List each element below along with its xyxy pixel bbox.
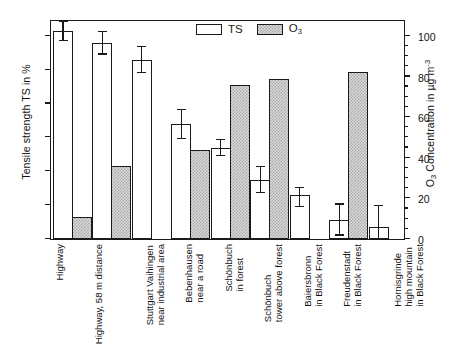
chart-legend: TS O3: [196, 22, 302, 36]
bar-ts: [132, 60, 152, 239]
error-bar-ts: [53, 21, 73, 41]
y-tick-right: [404, 75, 410, 76]
right-title-pre: O: [424, 179, 436, 187]
bar-ts: [171, 124, 191, 239]
x-category-label: Bebenhausennear a road: [183, 244, 205, 303]
x-category-label-line: Freudenstadt: [341, 244, 352, 307]
y-tick-left: [45, 204, 51, 205]
x-category-label: Stuttgart Vaihingennear industrial area: [144, 244, 166, 325]
x-category-label: Freudenstadtin Black Forest: [341, 244, 363, 307]
y-tick-left: [45, 102, 51, 103]
error-bar-stem: [141, 46, 142, 73]
x-category-label-line: in Black Forest: [313, 244, 324, 307]
legend-label-ts: TS: [228, 23, 243, 35]
error-bar-cap-bottom: [335, 234, 344, 235]
x-category-label: Hornisgrindehigh mountainin Black Forest: [392, 244, 425, 307]
error-bar-cap-bottom: [374, 238, 383, 239]
y-tick-label-right: 60: [418, 112, 458, 124]
bar-ts: [92, 43, 112, 239]
error-bar-cap-top: [177, 109, 186, 110]
y-axis-left-title: Tensile strength TS in %: [20, 47, 32, 197]
legend-item-ts: TS: [196, 23, 243, 35]
bar-o3: [348, 72, 368, 239]
x-category-label: Schönbuchin forest: [223, 244, 245, 292]
y-tick-left: [45, 238, 51, 239]
x-category-label-line: Stuttgart Vaihingen: [144, 244, 155, 325]
y-tick-right-minor: [404, 85, 408, 86]
error-bar-cap-top: [335, 203, 344, 204]
error-bar-ts: [329, 203, 349, 235]
error-bar-ts: [369, 205, 389, 239]
error-bar-ts: [92, 31, 112, 55]
error-bar-cap-bottom: [216, 155, 225, 156]
legend-label-o3: O3: [289, 22, 302, 36]
x-category-label-line: Baiersbronn: [302, 244, 313, 307]
y-tick-right: [404, 238, 410, 239]
y-tick-left: [45, 136, 51, 137]
y-tick-right-minor: [404, 65, 408, 66]
error-bar-stem: [299, 187, 300, 207]
x-category-label: Schönbuchtower above forest: [262, 244, 284, 322]
error-bar-ts: [290, 187, 310, 207]
y-tick-right: [404, 116, 410, 117]
x-category-label-line: Highway: [54, 244, 65, 280]
x-category-label-line: near a road: [194, 244, 205, 303]
bars-layer: [51, 21, 404, 239]
y-tick-label-right: 80: [418, 72, 458, 84]
y-tick-right-minor: [404, 136, 408, 137]
y-tick-right-minor: [404, 177, 408, 178]
bar-o3: [269, 79, 289, 239]
error-bar-ts: [132, 46, 152, 73]
y-tick-left: [45, 69, 51, 70]
error-bar-ts: [211, 139, 231, 156]
error-bar-cap-top: [295, 187, 304, 188]
x-category-label: Highway, 58 m distance: [93, 244, 104, 344]
plot-area: 020406080100120020406080100: [50, 20, 405, 240]
y-tick-right-minor: [404, 228, 408, 229]
x-category-label-line: in Black Forest: [352, 244, 363, 307]
legend-swatch-ts: [196, 24, 222, 35]
y-tick-right: [404, 157, 410, 158]
error-bar-cap-top: [216, 139, 225, 140]
y-tick-right: [404, 197, 410, 198]
bar-o3: [230, 85, 250, 239]
error-bar-cap-bottom: [295, 206, 304, 207]
legend-item-o3: O3: [257, 22, 302, 36]
x-category-label-line: Schönbuch: [262, 244, 273, 322]
right-title-sup: -3: [423, 60, 432, 67]
y-tick-right-minor: [404, 96, 408, 97]
x-category-label-line: Bebenhausen: [183, 244, 194, 303]
y-tick-right: [404, 35, 410, 36]
y-tick-label-right: 40: [418, 153, 458, 165]
y-tick-right-minor: [404, 126, 408, 127]
x-category-label-line: in Black Forest: [414, 244, 425, 307]
error-bar-cap-top: [137, 46, 146, 47]
error-bar-cap-top: [59, 21, 68, 22]
x-category-label-line: in forest: [234, 244, 245, 292]
y-tick-right-minor: [404, 218, 408, 219]
error-bar-stem: [339, 203, 340, 235]
error-bar-cap-top: [256, 166, 265, 167]
y-tick-right-minor: [404, 45, 408, 46]
x-axis-category-labels: HighwayHighway, 58 m distanceStuttgart V…: [50, 244, 405, 364]
y-tick-left: [45, 170, 51, 171]
y-tick-right-minor: [404, 167, 408, 168]
x-category-label: Highway: [54, 244, 65, 280]
error-bar-cap-bottom: [59, 40, 68, 41]
bar-o3: [111, 166, 131, 239]
error-bar-cap-bottom: [177, 138, 186, 139]
y-tick-right-minor: [404, 207, 408, 208]
right-title-sub: 3: [429, 175, 438, 179]
y-tick-left: [45, 35, 51, 36]
bar-ts: [211, 148, 231, 239]
y-tick-right-minor: [404, 187, 408, 188]
error-bar-cap-bottom: [98, 53, 107, 54]
error-bar-cap-bottom: [256, 192, 265, 193]
y-tick-right-minor: [404, 106, 408, 107]
x-category-label-line: high mountain: [403, 244, 414, 307]
y-tick-label-right: 100: [418, 31, 458, 43]
error-bar-cap-bottom: [137, 72, 146, 73]
x-category-label-line: Schönbuch: [223, 244, 234, 292]
error-bar-ts: [250, 166, 270, 193]
bar-o3: [190, 150, 210, 239]
